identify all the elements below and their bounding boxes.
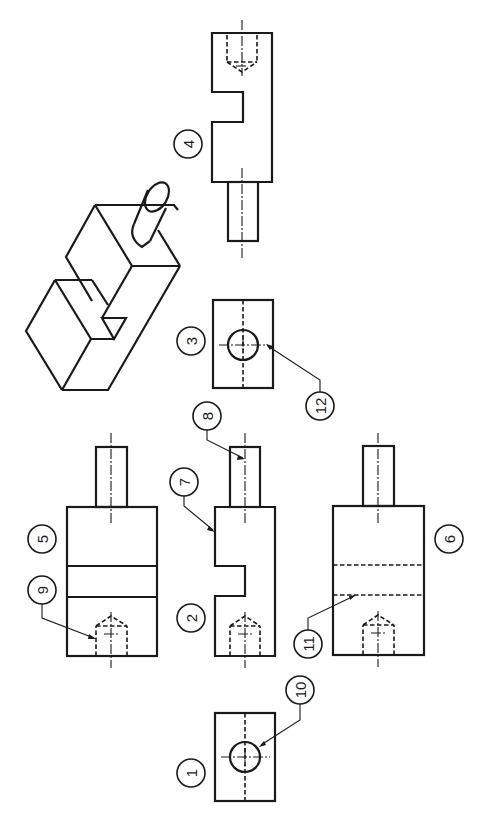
balloon-4: 4 (174, 130, 202, 158)
technical-drawing: 1 2 3 4 5 6 7 8 9 10 11 12 (0, 0, 488, 823)
balloon-1: 1 (177, 759, 205, 787)
balloon-12: 12 (306, 392, 334, 420)
balloon-11: 11 (294, 630, 322, 658)
balloon-9: 9 (28, 576, 56, 604)
balloon-10: 10 (286, 676, 314, 704)
isometric-view (26, 178, 180, 390)
balloon-3: 3 (177, 327, 205, 355)
svg-text:7: 7 (176, 478, 193, 486)
view-4-side-view (212, 20, 272, 258)
balloon-2: 2 (177, 604, 205, 632)
svg-text:10: 10 (292, 682, 309, 699)
svg-text:2: 2 (183, 614, 200, 622)
svg-text:11: 11 (300, 636, 317, 652)
svg-text:3: 3 (183, 337, 200, 345)
svg-text:8: 8 (199, 412, 216, 420)
balloon-8: 8 (193, 402, 221, 430)
svg-text:4: 4 (180, 140, 197, 148)
svg-text:1: 1 (183, 769, 200, 777)
balloon-7: 7 (170, 468, 198, 496)
view-6-bottom-view (333, 433, 424, 667)
svg-text:9: 9 (34, 586, 51, 594)
balloon-5: 5 (28, 525, 56, 553)
view-1-end-view (215, 713, 275, 801)
view-3-end-view (213, 300, 273, 388)
svg-text:5: 5 (34, 535, 51, 543)
svg-text:6: 6 (441, 535, 458, 543)
svg-text:12: 12 (312, 398, 329, 415)
view-2-front-view (215, 433, 275, 668)
balloon-6: 6 (435, 525, 463, 553)
